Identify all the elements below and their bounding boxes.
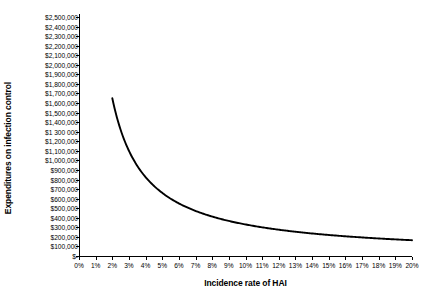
y-axis-tick-mark — [76, 17, 79, 18]
x-axis-tick-label: 19% — [389, 262, 402, 270]
y-axis-tick-label: $- — [20, 253, 78, 260]
y-axis-tick-label: $1,500,000 — [20, 109, 78, 116]
x-axis-tick-mark — [112, 257, 113, 260]
x-axis-tick-mark — [129, 257, 130, 260]
x-axis-tick-label: 4% — [141, 262, 151, 270]
y-axis-tick-mark — [76, 141, 79, 142]
x-axis-tick-mark — [362, 257, 363, 260]
y-axis-tick-label: $500,000 — [20, 205, 78, 212]
y-axis-tick-mark — [76, 74, 79, 75]
y-axis-tick-label: $900,000 — [20, 166, 78, 173]
y-axis-tick-mark — [76, 237, 79, 238]
y-axis-tick-mark — [76, 199, 79, 200]
x-axis-tick-mark — [262, 257, 263, 260]
y-axis-tick-mark — [76, 103, 79, 104]
x-axis-tick-label: 10% — [239, 262, 252, 270]
y-axis-tick-mark — [76, 208, 79, 209]
y-axis-tick-mark — [76, 122, 79, 123]
y-axis-tick-label: $1,700,000 — [20, 90, 78, 97]
x-axis-tick-label: 2% — [108, 262, 118, 270]
x-axis-tick-label: 11% — [256, 262, 269, 270]
x-axis-tick-mark — [162, 257, 163, 260]
x-axis-tick-label: 18% — [372, 262, 385, 270]
y-axis-tick-label: $2,000,000 — [20, 61, 78, 68]
y-axis-tick-label: $700,000 — [20, 186, 78, 193]
y-axis-tick-mark — [76, 189, 79, 190]
y-axis-tick-mark — [76, 27, 79, 28]
y-axis-tick-mark — [76, 84, 79, 85]
x-axis-tick-mark — [412, 257, 413, 260]
x-axis-title: Incidence rate of HAI — [79, 278, 412, 288]
x-axis-tick-label-group: 0%1%2%3%4%5%6%7%8%9%10%11%12%13%14%15%16… — [79, 262, 412, 272]
y-axis-tick-label: $300,000 — [20, 224, 78, 231]
x-axis-tick-label: 5% — [157, 262, 167, 270]
x-axis-tick-mark — [96, 257, 97, 260]
y-axis-tick-label: $2,200,000 — [20, 42, 78, 49]
x-axis-tick-label: 1% — [91, 262, 101, 270]
y-axis-tick-label: $600,000 — [20, 195, 78, 202]
y-axis-tick-mark — [76, 113, 79, 114]
y-axis-tick-mark — [76, 160, 79, 161]
x-axis-tick-label: 16% — [339, 262, 352, 270]
y-axis-tick-mark — [76, 180, 79, 181]
x-axis-tick-mark — [179, 257, 180, 260]
y-axis-tick-label: $100,000 — [20, 243, 78, 250]
y-axis-title: Expenditures on infection control — [0, 0, 16, 296]
x-axis-tick-label: 6% — [174, 262, 184, 270]
x-axis-tick-label: 15% — [322, 262, 335, 270]
y-axis-tick-label: $1,800,000 — [20, 80, 78, 87]
y-axis-tick-label: $200,000 — [20, 233, 78, 240]
x-axis-tick-mark — [79, 257, 80, 260]
y-axis-tick-label: $2,500,000 — [20, 14, 78, 21]
y-axis-tick-mark — [76, 36, 79, 37]
y-axis-tick-mark — [76, 151, 79, 152]
x-axis-tick-mark — [279, 257, 280, 260]
x-axis-tick-label: 14% — [305, 262, 318, 270]
data-series-line — [79, 17, 412, 256]
x-axis-tick-mark — [295, 257, 296, 260]
y-axis-tick-label: $2,100,000 — [20, 52, 78, 59]
y-axis-tick-mark — [76, 132, 79, 133]
x-axis-tick-label: 17% — [355, 262, 368, 270]
y-axis-tick-label: $1,200,000 — [20, 138, 78, 145]
y-axis-tick-label: $1 300 000 — [20, 128, 78, 135]
y-axis-tick-label: $1,100,000 — [20, 147, 78, 154]
y-axis-tick-label: $2,400,000 — [20, 23, 78, 30]
y-axis-tick-label: $1,400,000 — [20, 119, 78, 126]
y-axis-tick-mark — [76, 246, 79, 247]
x-axis-tick-label: 9% — [224, 262, 234, 270]
y-axis-tick-mark — [76, 65, 79, 66]
x-axis-tick-label: 12% — [272, 262, 285, 270]
plot-area — [79, 17, 412, 256]
y-axis-tick-mark — [76, 55, 79, 56]
x-axis-tick-label: 7% — [191, 262, 201, 270]
x-axis-tick-mark — [345, 257, 346, 260]
y-axis-tick-mark — [76, 170, 79, 171]
y-axis-tick-label: $1,900,000 — [20, 71, 78, 78]
x-axis-tick-mark — [395, 257, 396, 260]
y-axis-tick-mark — [76, 218, 79, 219]
y-axis-tick-label: $400,000 — [20, 214, 78, 221]
x-axis-tick-mark — [196, 257, 197, 260]
x-axis-tick-mark — [379, 257, 380, 260]
x-axis-tick-label: 13% — [289, 262, 302, 270]
x-axis-tick-label: 20% — [405, 262, 418, 270]
y-axis-tick-label: $800,000 — [20, 176, 78, 183]
x-axis-tick-mark — [146, 257, 147, 260]
x-axis-tick-mark — [312, 257, 313, 260]
x-axis-tick-mark — [229, 257, 230, 260]
x-axis-tick-mark — [212, 257, 213, 260]
y-axis-tick-label: $1,600,000 — [20, 100, 78, 107]
x-axis-tick-label: 3% — [124, 262, 134, 270]
x-axis-tick-mark — [329, 257, 330, 260]
x-axis-tick-label: 8% — [207, 262, 217, 270]
y-axis-tick-mark — [76, 227, 79, 228]
x-axis-tick-mark — [246, 257, 247, 260]
y-axis-tick-label: $1,000,000 — [20, 157, 78, 164]
expenditures-vs-incidence-chart: Expenditures on infection control $2,500… — [0, 0, 425, 296]
y-axis-tick-mark — [76, 46, 79, 47]
y-axis-tick-label-group: $2,500,000$2,400,000$2,300,000$2,200,000… — [20, 14, 78, 256]
y-axis-tick-mark — [76, 93, 79, 94]
x-axis-tick-label: 0% — [74, 262, 84, 270]
y-axis-tick-label: $2,300,000 — [20, 33, 78, 40]
